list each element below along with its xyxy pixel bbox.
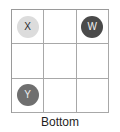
grid-cell-r3c1[interactable]: Y — [12, 79, 44, 113]
grid-cell-r3c3[interactable] — [77, 79, 109, 113]
grid-cell-r2c3[interactable] — [77, 44, 109, 78]
grid-cell-r3c2[interactable] — [44, 79, 76, 113]
grid-cell-r2c2[interactable] — [44, 44, 76, 78]
three-by-three-grid: X W Y — [11, 9, 109, 113]
grid-cell-r2c1[interactable] — [12, 44, 44, 78]
figure-caption: Bottom — [0, 114, 120, 130]
token-y[interactable]: Y — [17, 84, 39, 106]
grid-cell-r1c3[interactable]: W — [77, 10, 109, 44]
token-w[interactable]: W — [81, 16, 103, 38]
grid-cell-r1c1[interactable]: X — [12, 10, 44, 44]
grid-figure: X W Y Bottom — [0, 0, 120, 132]
grid-cell-r1c2[interactable] — [44, 10, 76, 44]
token-x[interactable]: X — [17, 16, 39, 38]
